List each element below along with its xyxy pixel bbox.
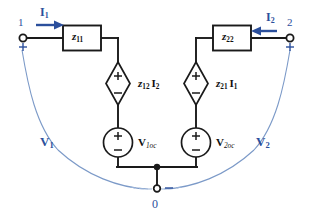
voltage-source-label-v1oc-v: V: [138, 136, 146, 148]
current-arrow-i2: [251, 27, 277, 36]
diamond-shape-z21i1: [184, 62, 208, 105]
port-voltage-label-v2-v: V: [256, 134, 265, 149]
impedance-label-z22: z22: [222, 31, 234, 44]
port-voltage-label-v1: V1: [40, 135, 54, 150]
diamond-shape-z12i2: [106, 62, 130, 105]
terminal-node-1: [19, 34, 26, 41]
current-label-i2: I2: [266, 11, 275, 25]
dependent-source-label-z21i1: z21I1: [216, 78, 237, 91]
dependent-source-label-z12i2-zsub: 12: [142, 83, 149, 91]
terminal-label-1: 1: [18, 17, 24, 28]
port-voltage-label-v2: V2: [256, 135, 270, 150]
circuit-diagram: 1 2 0 I1 I2 z11 z22 z12I2 z21I1 V1oc V2o…: [0, 0, 313, 221]
terminal-label-2: 2: [287, 17, 293, 28]
junction-dot-ground: [154, 164, 160, 170]
impedance-label-z22-subscript: 22: [226, 36, 233, 44]
terminal-node-ground: [154, 185, 161, 192]
voltage-source-label-v2oc: V2oc: [216, 137, 234, 150]
dependent-source-label-z21i1-isub: 1: [234, 83, 238, 91]
current-arrow-i1: [36, 21, 64, 30]
voltage-source-label-v2oc-subscript: 2oc: [224, 142, 234, 150]
impedance-label-z11-subscript: 11: [76, 36, 83, 44]
voltage-source-label-v2oc-v: V: [216, 136, 224, 148]
impedance-label-z11: z11: [72, 31, 83, 44]
dependent-source-label-z12i2: z12I2: [138, 78, 159, 91]
port-polarity-plus-2: [286, 43, 294, 51]
terminal-node-2: [286, 34, 293, 41]
port-voltage-label-v1-v: V: [40, 134, 49, 149]
terminal-label-ground: 0: [152, 198, 158, 210]
port-polarity-plus-1: [19, 43, 27, 51]
current-label-i1-subscript: 1: [45, 11, 49, 20]
voltage-source-label-v1oc: V1oc: [138, 137, 156, 150]
port-voltage-arc-v1: [22, 50, 148, 189]
port-voltage-label-v1-subscript: 1: [49, 140, 53, 150]
dependent-source-label-z21i1-zsub: 21: [220, 83, 227, 91]
current-label-i2-subscript: 2: [271, 16, 275, 25]
voltage-source-label-v1oc-subscript: 1oc: [146, 142, 156, 150]
port-voltage-arc-v2: [164, 50, 290, 189]
dependent-source-label-z12i2-isub: 2: [156, 83, 160, 91]
current-label-i1: I1: [40, 6, 49, 20]
port-voltage-label-v2-subscript: 2: [265, 140, 269, 150]
circuit-schematic-graphics: [0, 0, 313, 221]
